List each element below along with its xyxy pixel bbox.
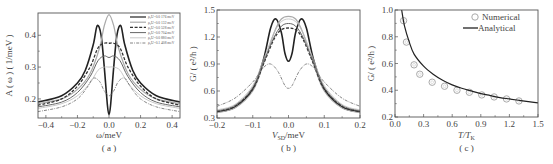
x-tick-label: 1.2 (504, 119, 515, 129)
series-line (217, 19, 360, 112)
legend-entry: ρ₀U=0.0 880 meV (148, 36, 175, 40)
legend: NumericalAnalytical (463, 12, 520, 33)
x-tick-label: 0.3 (418, 119, 430, 129)
legend-entry: ρ₀U=0.0 132 meV (148, 21, 175, 25)
y-tick-label: 0.9 (204, 59, 216, 69)
y-axis-c: 0.20.40.60.81.0 (382, 5, 398, 122)
legend: ρ₀U=0.0 176 meVρ₀U=0.0 132 meVρ₀U=0.0 52… (130, 15, 175, 45)
y-tick-label: 1.0 (382, 5, 394, 15)
series-line (38, 78, 180, 112)
y-tick-label: 0.2 (25, 94, 36, 104)
y-tick-label: 0.4 (382, 85, 394, 95)
x-tick-label: 0.0 (283, 120, 295, 130)
data-point (417, 71, 423, 77)
x-tick-label: 0.1 (319, 120, 330, 130)
y-tick-label: 0.6 (382, 59, 394, 69)
data-point (411, 62, 417, 68)
legend-entry: ρ₀U=0.0 176 meV (148, 15, 175, 19)
y-axis-title: G/ ( e²/h ) (366, 46, 376, 81)
x-axis-title: T/TK (458, 130, 476, 141)
legend-entry-analytical: Analytical (478, 23, 516, 33)
legend-entry-numerical: Numerical (482, 12, 520, 22)
panel-label: ( b ) (281, 143, 296, 153)
y-tick-label: 0.4 (25, 30, 37, 40)
data-point (429, 79, 435, 85)
y-axis-a: 0.20.30.4 (25, 30, 41, 104)
panel-c: 0.00.30.60.91.21.50.20.40.60.81.0T/TKG/ … (366, 5, 544, 153)
x-tick-label: −0.2 (69, 120, 85, 130)
y-tick-label: 0.3 (25, 62, 37, 72)
legend-entry: ρ₀U=0.0 528 meV (148, 26, 175, 30)
y-tick-label: 1.5 (204, 5, 216, 15)
x-axis-title: ω/meV (96, 130, 122, 140)
series-line (217, 16, 360, 112)
data-point (441, 83, 447, 89)
x-tick-label: 0.9 (475, 119, 487, 129)
y-tick-label: 1.2 (204, 32, 215, 42)
x-tick-label: 1.5 (532, 119, 544, 129)
panel-label: ( c ) (459, 143, 474, 153)
x-axis-b: −0.2−0.10.00.10.2 (209, 115, 366, 130)
x-axis-a: −0.4−0.20.00.20.4 (38, 115, 179, 130)
panel-a: −0.4−0.20.00.20.40.20.30.4ω/meVA ( ω ) (… (4, 13, 180, 153)
series-line (217, 24, 360, 111)
series-line (38, 67, 180, 109)
y-tick-label: 0.3 (204, 113, 216, 123)
x-tick-label: −0.4 (38, 120, 55, 130)
plot-area-b (217, 16, 360, 112)
y-tick-label: 0.6 (204, 86, 216, 96)
x-tick-label: 0.6 (447, 119, 459, 129)
y-tick-label: 0.2 (382, 112, 393, 122)
panel-label: ( a ) (102, 143, 117, 153)
legend-entry: ρ₀U=0.0 704 meV (148, 31, 175, 35)
x-axis-c: 0.00.30.60.91.21.5 (389, 114, 544, 129)
plot-area-c (400, 10, 538, 104)
series-line (217, 64, 360, 106)
panel-b: −0.2−0.10.00.10.20.30.60.91.21.5VSD/meVG… (188, 5, 366, 153)
series-line (217, 19, 360, 110)
y-tick-label: 0.8 (382, 32, 394, 42)
x-tick-label: 0.4 (166, 120, 178, 130)
y-axis-title: G/ ( e²/h ) (188, 46, 198, 81)
x-tick-label: 0.2 (354, 120, 365, 130)
x-axis-title: VSD/meV (272, 130, 306, 141)
y-axis-title: A ( ω ) ( 1/meV ) (4, 35, 14, 97)
legend-entry: ρ₀U=0.1 408 meV (148, 41, 175, 45)
x-tick-label: 0.0 (103, 120, 115, 130)
series-line (217, 28, 360, 112)
x-tick-label: 0.2 (135, 120, 146, 130)
figure-canvas: −0.4−0.20.00.20.40.20.30.4ω/meVA ( ω ) (… (0, 0, 553, 164)
y-axis-b: 0.30.60.91.21.5 (204, 5, 220, 123)
x-tick-label: −0.1 (245, 120, 261, 130)
